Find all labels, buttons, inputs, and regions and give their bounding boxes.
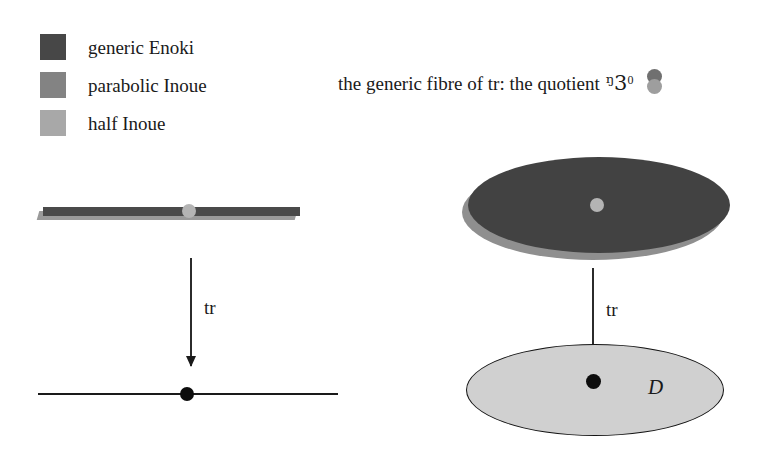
generic-fibre-caption: the generic fibre of tr: the quotient ᵑ3… bbox=[338, 64, 663, 95]
right-tr-label: tr bbox=[606, 300, 618, 319]
swatch-half-inoue bbox=[40, 110, 66, 136]
caption-text: the generic fibre of tr: the quotient bbox=[338, 73, 600, 95]
stacked-circle-bottom bbox=[647, 79, 662, 94]
legend-label-parabolic-inoue: parabolic Inoue bbox=[88, 76, 207, 95]
base-disk-label: D bbox=[648, 377, 663, 398]
swatch-generic-enoki bbox=[40, 34, 66, 60]
fraktur-p-superscript: 0 bbox=[627, 73, 633, 88]
left-total-space-bar bbox=[38, 204, 300, 224]
right-total-space-disk bbox=[462, 156, 730, 264]
swatch-parabolic-inoue bbox=[40, 72, 66, 98]
legend-item-generic-enoki: generic Enoki bbox=[40, 28, 207, 66]
bar-center-node bbox=[182, 204, 196, 218]
legend: generic Enoki parabolic Inoue half Inoue bbox=[40, 28, 207, 142]
left-tr-arrow bbox=[190, 258, 192, 366]
bar-top-face bbox=[43, 207, 300, 216]
left-tr-label: tr bbox=[204, 298, 216, 317]
two-stacked-circles-icon bbox=[647, 69, 663, 95]
base-disk-D bbox=[466, 344, 724, 436]
base-disk-center-point bbox=[586, 374, 601, 389]
legend-item-half-inoue: half Inoue bbox=[40, 104, 207, 142]
top-ellipse-center-node bbox=[590, 198, 604, 212]
left-arrow-head bbox=[186, 356, 196, 367]
fraktur-p-symbol: ᵑ3 bbox=[606, 71, 628, 95]
legend-label-generic-enoki: generic Enoki bbox=[88, 38, 194, 57]
legend-label-half-inoue: half Inoue bbox=[88, 114, 166, 133]
figure-canvas: generic Enoki parabolic Inoue half Inoue… bbox=[0, 0, 782, 450]
left-arrow-shaft bbox=[190, 258, 192, 366]
legend-item-parabolic-inoue: parabolic Inoue bbox=[40, 66, 207, 104]
left-base-point bbox=[180, 387, 194, 401]
